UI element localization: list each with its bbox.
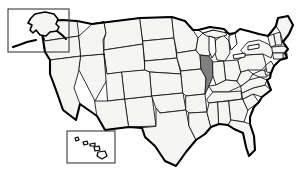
state-sd[interactable] bbox=[143, 38, 177, 61]
state-mi[interactable] bbox=[214, 35, 230, 61]
us-map-svg bbox=[0, 0, 304, 184]
inset-hawaii-molokai[interactable] bbox=[90, 143, 95, 146]
lake-huron bbox=[229, 33, 237, 50]
state-nm[interactable] bbox=[125, 96, 156, 127]
inset-hawaii-box bbox=[67, 131, 115, 163]
inset-hawaii-kauai[interactable] bbox=[75, 137, 79, 141]
us-map-figure: United States map with one state highlig… bbox=[0, 0, 304, 184]
state-id[interactable] bbox=[79, 22, 106, 56]
inset-alaska-aleutians bbox=[13, 40, 36, 47]
inset-hawaii[interactable] bbox=[67, 131, 115, 163]
inset-hawaii-oahu[interactable] bbox=[83, 141, 88, 145]
state-nd[interactable] bbox=[140, 17, 174, 41]
state-ct[interactable] bbox=[273, 53, 283, 59]
state-nv[interactable] bbox=[79, 54, 108, 101]
state-ks[interactable] bbox=[150, 72, 183, 96]
state-az[interactable] bbox=[95, 99, 129, 130]
state-ia[interactable] bbox=[177, 50, 201, 71]
state-ky[interactable] bbox=[209, 80, 241, 92]
state-mo[interactable] bbox=[181, 69, 206, 96]
inset-hawaii-maui[interactable] bbox=[94, 146, 100, 151]
state-co[interactable] bbox=[122, 70, 152, 99]
inset-hawaii-bigisland[interactable] bbox=[97, 151, 107, 159]
state-ar[interactable] bbox=[186, 94, 207, 113]
